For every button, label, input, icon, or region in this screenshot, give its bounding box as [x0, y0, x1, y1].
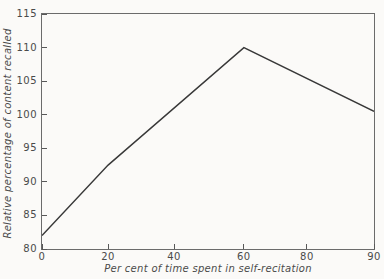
recall-line-chart: Relative percentage of content recalled …: [0, 0, 384, 279]
y-tick-mark: [42, 215, 47, 216]
y-tick-mark: [42, 47, 47, 48]
plot-area: [41, 13, 375, 250]
y-tick-label: 100: [0, 109, 37, 121]
x-tick-mark: [243, 244, 244, 249]
x-axis-label: Per cent of time spent in self-recitatio…: [104, 263, 312, 274]
y-tick-label: 115: [0, 8, 37, 20]
x-tick-mark: [108, 244, 109, 249]
y-tick-label: 85: [0, 209, 37, 221]
x-tick-label: 20: [101, 251, 115, 262]
y-tick-label: 80: [0, 243, 37, 255]
x-tick-label: 0: [39, 251, 46, 262]
y-tick-mark: [42, 14, 47, 15]
y-tick-mark: [42, 249, 47, 250]
y-tick-label: 110: [0, 42, 37, 54]
y-tick-mark: [42, 81, 47, 82]
x-tick-mark: [306, 244, 307, 249]
data-line-svg: [42, 14, 374, 249]
x-tick-mark: [174, 244, 175, 249]
y-tick-mark: [42, 114, 47, 115]
x-tick-label: 80: [300, 251, 314, 262]
x-tick-label: 90: [367, 251, 381, 262]
y-tick-label: 105: [0, 75, 37, 87]
x-tick-label: 60: [237, 251, 251, 262]
y-tick-mark: [42, 148, 47, 149]
x-tick-mark: [374, 244, 375, 249]
y-tick-label: 90: [0, 176, 37, 188]
y-tick-label: 95: [0, 142, 37, 154]
x-tick-label: 40: [167, 251, 181, 262]
recall-line: [42, 48, 374, 236]
y-tick-mark: [42, 181, 47, 182]
